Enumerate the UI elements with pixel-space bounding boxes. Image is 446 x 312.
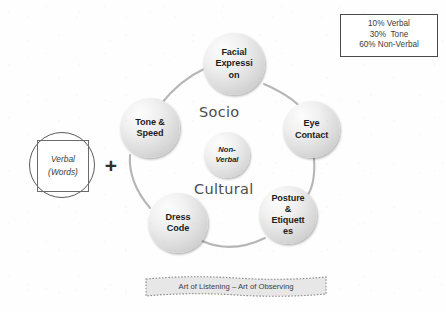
ring-arc-posture-dress	[202, 238, 265, 247]
legend-line-verbal: 10% Verbal	[343, 19, 435, 30]
plus-icon: +	[102, 157, 120, 175]
node-tone-speed-label: Tone & Speed	[135, 117, 165, 139]
ring-word-cultural: Cultural	[194, 181, 254, 197]
node-eye-contact-label: Eye Contact	[295, 118, 328, 140]
ring-arc-dress-tone	[130, 155, 150, 208]
node-eye-contact: Eye Contact	[283, 101, 340, 158]
node-dress-code: Dress Code	[148, 193, 208, 253]
ring-arc-tone-facial	[161, 69, 204, 104]
node-posture-etiquettes: Posture & Etiquett es	[259, 186, 317, 244]
legend-box: 10% Verbal 30% Tone 60% Non-Verbal	[340, 14, 438, 57]
diagram-canvas: 10% Verbal 30% Tone 60% Non-Verbal Verba…	[0, 0, 446, 312]
node-non-verbal-label: Non- Verbal	[216, 145, 239, 164]
node-tone-speed: Tone & Speed	[120, 98, 180, 158]
banner-ribbon: Art of Listening – Art of Observing	[144, 275, 328, 298]
verbal-label-line2: (Words)	[48, 166, 78, 179]
legend-line-nonverbal: 60% Non-Verbal	[343, 40, 435, 51]
verbal-node: Verbal (Words)	[29, 132, 95, 198]
node-facial-expression-label: Facial Expressi on	[215, 47, 252, 81]
ring-word-socio: Socio	[199, 104, 239, 120]
node-non-verbal: Non- Verbal	[204, 132, 250, 178]
verbal-square-outline: Verbal (Words)	[37, 140, 89, 192]
banner-label: Art of Listening – Art of Observing	[144, 275, 328, 298]
node-facial-expression: Facial Expressi on	[203, 33, 265, 95]
verbal-label-line1: Verbal	[51, 153, 75, 166]
node-dress-code-label: Dress Code	[166, 212, 191, 234]
legend-line-tone: 30% Tone	[343, 30, 435, 41]
node-posture-etiquettes-label: Posture & Etiquett es	[271, 193, 304, 238]
